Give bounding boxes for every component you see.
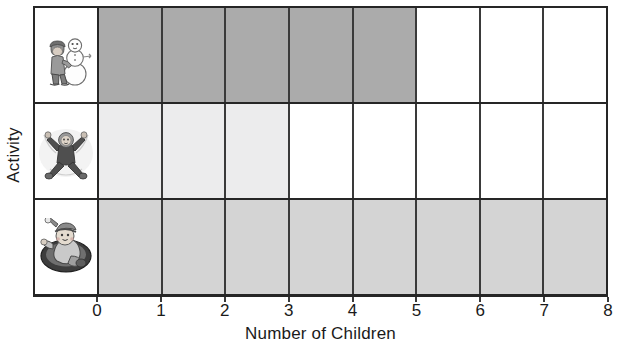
cell	[226, 104, 290, 198]
chart-row-snowman	[35, 8, 606, 104]
cell	[481, 104, 545, 198]
cell	[354, 104, 418, 198]
x-axis-tick-label: 2	[220, 300, 229, 322]
x-axis-tick-label: 4	[348, 300, 357, 322]
child-building-snowman-icon	[39, 24, 93, 86]
chart-cells-snowman	[99, 8, 606, 102]
x-axis-tick-label: 8	[603, 300, 612, 322]
cell	[226, 200, 290, 294]
chart-cells-snow-angel	[99, 104, 606, 198]
category-label-cell-snow-angel	[35, 104, 99, 198]
cell	[99, 200, 163, 294]
cell	[417, 8, 481, 102]
cell	[290, 104, 354, 198]
x-axis-tick-label: 6	[476, 300, 485, 322]
cell	[163, 8, 227, 102]
cell	[481, 8, 545, 102]
category-label-cell-sledding	[35, 200, 99, 294]
cell	[163, 200, 227, 294]
cell	[354, 8, 418, 102]
cell	[417, 104, 481, 198]
cell	[163, 104, 227, 198]
y-axis-title-text: Activity	[4, 127, 24, 182]
x-axis-tick-labels: 012345678	[97, 300, 608, 324]
cell	[99, 104, 163, 198]
x-axis-tick-label: 3	[284, 300, 293, 322]
category-label-cell-snowman	[35, 8, 99, 102]
cell	[544, 8, 606, 102]
x-axis-tick-label: 1	[156, 300, 165, 322]
x-axis-title: Number of Children	[33, 324, 608, 344]
x-axis-tick-label: 5	[412, 300, 421, 322]
chart-row-snow-angel	[35, 104, 606, 200]
cell	[290, 8, 354, 102]
child-sledding-icon	[37, 218, 95, 276]
x-axis-title-text: Number of Children	[245, 324, 396, 343]
child-making-snow-angel-icon	[37, 122, 95, 180]
y-axis-title: Activity	[0, 95, 28, 215]
cell	[290, 200, 354, 294]
cell	[544, 104, 606, 198]
x-axis-tick-label: 0	[92, 300, 101, 322]
cell	[544, 200, 606, 294]
cell	[481, 200, 545, 294]
x-axis-tick-label: 7	[539, 300, 548, 322]
cell	[417, 200, 481, 294]
chart-cells-sledding	[99, 200, 606, 294]
cell	[354, 200, 418, 294]
chart-plot-area	[33, 6, 608, 296]
cell	[99, 8, 163, 102]
cell	[226, 8, 290, 102]
chart-row-sledding	[35, 200, 606, 294]
